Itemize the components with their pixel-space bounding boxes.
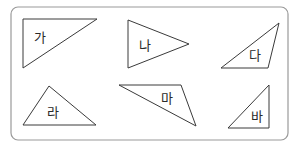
triangle-label: 바 <box>251 109 263 124</box>
triangle-label: 나 <box>139 38 151 53</box>
shapes-diagram: 가 나 다 라 마 바 <box>0 0 299 150</box>
triangle-label: 다 <box>249 48 261 63</box>
triangle-label: 라 <box>47 105 59 120</box>
triangle-label: 마 <box>161 91 173 106</box>
triangle-label: 가 <box>34 30 46 45</box>
